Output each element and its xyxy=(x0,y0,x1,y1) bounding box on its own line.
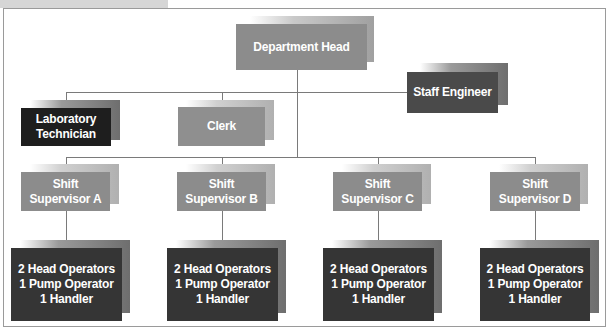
connector-staff-row xyxy=(66,92,408,93)
shift-supervisor-b-box: Shift Supervisor B xyxy=(177,172,266,211)
crew-a-box: 2 Head Operators 1 Pump Operator 1 Handl… xyxy=(11,248,122,321)
shift-supervisor-a-box: Shift Supervisor A xyxy=(21,172,110,211)
shift-supervisor-a-line1: Shift xyxy=(53,177,79,192)
crew-a-line3: 1 Handler xyxy=(40,292,93,307)
department-head-box: Department Head xyxy=(236,24,367,70)
shift-supervisor-c-box: Shift Supervisor C xyxy=(333,172,422,211)
shift-supervisor-a-line2: Supervisor A xyxy=(30,192,102,207)
crew-c-line3: 1 Handler xyxy=(352,292,405,307)
crew-d-line1: 2 Head Operators xyxy=(487,262,584,277)
crew-b-line2: 1 Pump Operator xyxy=(175,277,269,292)
staff-engineer-label: Staff Engineer xyxy=(413,85,492,100)
crew-c-line1: 2 Head Operators xyxy=(330,262,427,277)
crew-c-box: 2 Head Operators 1 Pump Operator 1 Handl… xyxy=(323,248,434,321)
shift-supervisor-d-line2: Supervisor D xyxy=(499,192,571,207)
shift-supervisor-c-line2: Supervisor C xyxy=(341,192,413,207)
laboratory-technician-box: Laboratory Technician xyxy=(21,108,111,146)
staff-engineer-box: Staff Engineer xyxy=(407,72,498,113)
crew-d-line3: 1 Handler xyxy=(509,292,562,307)
shift-supervisor-d-line1: Shift xyxy=(522,177,548,192)
shift-supervisor-b-line1: Shift xyxy=(209,177,235,192)
connector-shift-row xyxy=(66,157,536,158)
shift-supervisor-c-line1: Shift xyxy=(365,177,391,192)
shift-supervisor-b-line2: Supervisor B xyxy=(185,192,257,207)
crew-c-line2: 1 Pump Operator xyxy=(331,277,425,292)
laboratory-technician-line2: Technician xyxy=(36,127,96,142)
crew-b-line3: 1 Handler xyxy=(196,292,249,307)
connector-head-trunk xyxy=(297,70,298,158)
shift-supervisor-d-box: Shift Supervisor D xyxy=(490,172,580,211)
crew-b-box: 2 Head Operators 1 Pump Operator 1 Handl… xyxy=(167,248,278,321)
header-strip xyxy=(0,0,168,8)
crew-d-line2: 1 Pump Operator xyxy=(488,277,582,292)
department-head-label: Department Head xyxy=(253,40,349,55)
crew-a-line2: 1 Pump Operator xyxy=(19,277,113,292)
clerk-label: Clerk xyxy=(207,119,236,134)
clerk-box: Clerk xyxy=(178,107,265,146)
crew-b-line1: 2 Head Operators xyxy=(174,262,271,277)
crew-a-line1: 2 Head Operators xyxy=(18,262,115,277)
crew-d-box: 2 Head Operators 1 Pump Operator 1 Handl… xyxy=(480,248,590,321)
laboratory-technician-line1: Laboratory xyxy=(36,112,97,127)
